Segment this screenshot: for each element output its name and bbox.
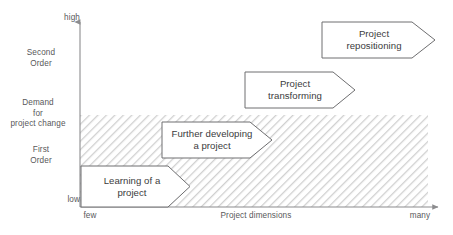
y-axis-label-high: high xyxy=(36,13,80,24)
y-axis-band-first-order: First Order xyxy=(8,145,74,166)
arrow-label-project-transforming: Project transforming xyxy=(248,78,342,102)
arrow-label-learning: Learning of a project xyxy=(84,175,180,199)
x-axis-label-few: few xyxy=(72,211,108,222)
x-axis-label-many: many xyxy=(400,211,440,222)
y-axis-band-second-order: Second Order xyxy=(8,48,74,69)
y-axis-label-low: low xyxy=(36,195,80,206)
arrow-label-project-repositioning: Project repositioning xyxy=(326,28,422,52)
arrow-label-further-developing: Further developing a project xyxy=(164,128,260,152)
project-dimensions-diagram: high Second Order Demand for project cha… xyxy=(0,0,453,235)
y-axis-title: Demand for project change xyxy=(0,98,76,130)
x-axis-title: Project dimensions xyxy=(206,211,306,222)
